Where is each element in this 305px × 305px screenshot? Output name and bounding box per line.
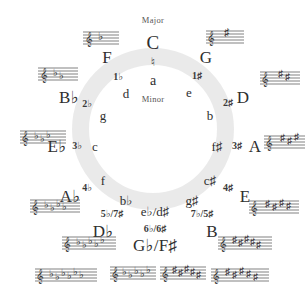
- svg-text:𝄞: 𝄞: [219, 236, 227, 252]
- key-major-gb-fs[interactable]: G♭/F♯: [133, 237, 177, 254]
- key-acc-db: 5♭/7♯: [101, 209, 124, 219]
- svg-text:♭: ♭: [40, 133, 45, 144]
- circle-of-fifths-diagram: Major C ♮ a Minor G 1♯ e D 2♯ b A 3♯ f♯ …: [0, 0, 305, 305]
- svg-text:♭: ♭: [146, 264, 151, 275]
- svg-text:♭: ♭: [98, 30, 103, 42]
- svg-text:♯: ♯: [184, 263, 189, 274]
- svg-text:♭: ♭: [128, 269, 133, 280]
- svg-text:♭: ♭: [59, 70, 64, 81]
- staff-key-a: 𝄞 ♯ ♯ ♯: [262, 132, 305, 152]
- svg-text:♭: ♭: [46, 129, 51, 140]
- svg-text:♭: ♭: [140, 268, 145, 279]
- key-acc-eb: 3♭: [72, 141, 82, 151]
- svg-text:♯: ♯: [265, 198, 270, 209]
- key-acc-gb-fs: 6♭/6♯: [144, 224, 167, 234]
- svg-text:♭: ♭: [73, 266, 78, 277]
- svg-text:♯: ♯: [232, 269, 237, 280]
- staff-key-b-upper: 𝄞 ♯ ♯ ♯ ♯ ♯: [216, 233, 274, 253]
- svg-text:♭: ♭: [76, 236, 81, 247]
- key-acc-a: 3♯: [232, 141, 242, 151]
- svg-text:♭: ♭: [62, 201, 67, 212]
- svg-text:♯: ♯: [225, 266, 230, 277]
- key-minor-f[interactable]: f: [101, 174, 105, 187]
- svg-text:♯: ♯: [232, 234, 237, 245]
- svg-text:♭: ♭: [134, 265, 139, 276]
- svg-text:♯: ♯: [278, 68, 283, 79]
- key-acc-e: 4♯: [223, 183, 233, 193]
- svg-text:𝄞: 𝄞: [36, 268, 44, 284]
- svg-text:♭: ♭: [50, 202, 55, 213]
- staff-key-b: 𝄞 ♯ ♯ ♯ ♯ ♯: [209, 264, 271, 286]
- key-minor-bb[interactable]: b♭: [120, 194, 133, 207]
- key-minor-fs[interactable]: f♯: [212, 140, 223, 153]
- svg-text:𝄞: 𝄞: [207, 30, 215, 46]
- svg-text:𝄞: 𝄞: [261, 71, 269, 87]
- svg-text:♯: ♯: [279, 197, 284, 208]
- svg-text:♭: ♭: [88, 235, 93, 246]
- svg-text:♭: ♭: [44, 199, 49, 210]
- svg-text:♯: ♯: [196, 269, 201, 280]
- staff-key-gb-flats: 𝄞 ♭ ♭ ♭ ♭ ♭: [108, 262, 158, 284]
- svg-text:𝄞: 𝄞: [31, 199, 39, 215]
- key-acc-d: 2♯: [223, 98, 233, 108]
- staff-key-d: 𝄞 ♯ ♯: [258, 68, 302, 88]
- svg-text:♭: ♭: [53, 67, 58, 78]
- key-minor-eb-ds[interactable]: e♭/d♯: [141, 205, 170, 218]
- key-acc-ab: 4♭: [82, 183, 92, 193]
- key-major-a[interactable]: A: [249, 138, 261, 155]
- key-minor-gs[interactable]: g♯: [186, 194, 199, 207]
- key-minor-b[interactable]: b: [207, 109, 214, 122]
- svg-text:♭: ♭: [94, 238, 99, 249]
- staff-key-ab: 𝄞 ♭ ♭ ♭ ♭: [28, 196, 82, 216]
- key-acc-g: 1♯: [192, 71, 202, 81]
- svg-text:𝄞: 𝄞: [265, 135, 273, 151]
- natural-sign-icon: ♮: [151, 56, 155, 68]
- key-major-g[interactable]: G: [200, 49, 212, 66]
- svg-text:♯: ♯: [178, 267, 183, 278]
- key-acc-f: 1♭: [113, 72, 123, 82]
- key-minor-cs[interactable]: c♯: [204, 174, 216, 187]
- svg-text:♭: ♭: [100, 234, 105, 245]
- svg-text:♯: ♯: [253, 271, 258, 282]
- svg-text:♭: ♭: [55, 271, 60, 282]
- key-major-f[interactable]: F: [102, 49, 112, 66]
- svg-text:𝄞: 𝄞: [212, 268, 220, 284]
- svg-text:♯: ♯: [250, 236, 255, 247]
- svg-text:♭: ♭: [82, 239, 87, 250]
- svg-text:♯: ♯: [272, 201, 277, 212]
- staff-key-gb: 𝄞 ♭ ♭ ♭ ♭ ♭ ♭: [33, 264, 99, 286]
- svg-text:𝄞: 𝄞: [161, 266, 169, 282]
- svg-text:♯: ♯: [294, 132, 299, 142]
- key-minor-g[interactable]: g: [100, 109, 107, 122]
- center-minor-a: a: [150, 74, 156, 88]
- svg-text:♭: ♭: [49, 268, 54, 279]
- svg-text:𝄞: 𝄞: [85, 31, 93, 47]
- staff-key-eb: 𝄞 ♭ ♭ ♭: [18, 127, 68, 147]
- svg-text:♭: ♭: [67, 270, 72, 281]
- svg-text:♭: ♭: [34, 130, 39, 141]
- svg-text:♭: ♭: [61, 267, 66, 278]
- svg-text:♭: ♭: [56, 198, 61, 209]
- key-major-d[interactable]: D: [237, 89, 249, 106]
- staff-key-bb: 𝄞 ♭ ♭: [36, 64, 80, 84]
- key-major-bb[interactable]: B♭: [59, 89, 79, 106]
- major-caption: Major: [142, 16, 164, 25]
- center-key-c: C: [147, 33, 160, 52]
- staff-key-f: 𝄞 ♭: [81, 28, 121, 48]
- svg-text:♯: ♯: [287, 135, 292, 146]
- svg-text:♯: ♯: [238, 237, 243, 248]
- key-minor-e[interactable]: e: [186, 86, 192, 99]
- minor-caption: Minor: [142, 95, 165, 104]
- staff-key-fs-sharps: 𝄞 ♯ ♯ ♯ ♯ ♯: [158, 262, 208, 284]
- key-acc-b: 7♭/5♯: [191, 209, 214, 219]
- staff-key-e: 𝄞 ♯ ♯ ♯ ♯: [247, 197, 301, 217]
- svg-text:𝄞: 𝄞: [21, 130, 29, 146]
- key-minor-d[interactable]: d: [123, 87, 130, 100]
- svg-text:♯: ♯: [224, 27, 230, 38]
- svg-text:♯: ♯: [280, 132, 285, 143]
- key-minor-c[interactable]: c: [92, 140, 98, 153]
- svg-text:♯: ♯: [286, 200, 291, 211]
- key-acc-bb: 2♭: [82, 99, 92, 109]
- svg-text:𝄞: 𝄞: [40, 67, 48, 83]
- svg-text:♯: ♯: [244, 233, 249, 244]
